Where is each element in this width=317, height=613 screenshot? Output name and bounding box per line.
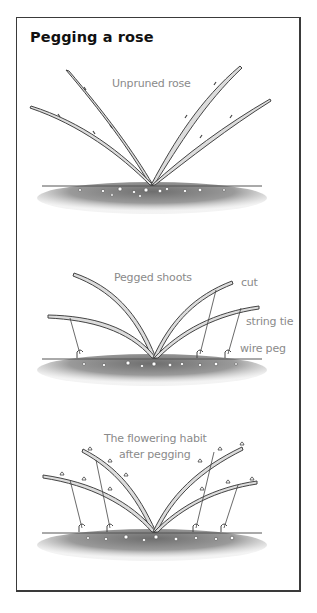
illustration	[0, 0, 317, 613]
soil-mound	[37, 182, 267, 214]
annotation-wire-peg: wire peg	[240, 342, 286, 355]
soil-mound	[37, 529, 267, 561]
pegged-rose-drawing	[37, 273, 267, 386]
caption-pegged-shoots: Pegged shoots	[114, 271, 192, 284]
caption-flowering-habit-line2: after pegging	[119, 448, 191, 461]
annotation-string-tie: string tie	[246, 315, 293, 328]
caption-unpruned-rose: Unpruned rose	[112, 77, 191, 90]
caption-flowering-habit-line1: The flowering habit	[104, 432, 207, 445]
annotation-cut: cut	[241, 276, 258, 289]
